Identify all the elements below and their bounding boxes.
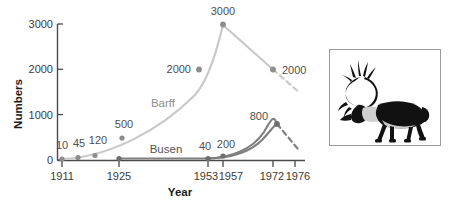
barff-label-2000b: 2000 — [282, 64, 306, 76]
antler-tine-5 — [342, 75, 352, 82]
y-tick-label-2000: 2000 — [29, 63, 53, 75]
barff-label-120: 120 — [89, 134, 107, 146]
busen-point-800 — [274, 121, 280, 127]
x-tick-label-1976: 1976 — [286, 170, 310, 182]
reindeer-figure — [338, 60, 429, 143]
y-tick-label-1000: 1000 — [29, 109, 53, 121]
y-tick-label-0: 0 — [47, 154, 53, 166]
antler-tine-1 — [350, 64, 356, 78]
y-tick-labels: 3000 2000 1000 0 — [29, 18, 53, 166]
reindeer-illustration-box — [329, 49, 441, 146]
figure-root: 3000 2000 1000 0 1911 1925 1953 1957 197… — [0, 0, 457, 210]
barff-value-labels: 10 45 120 500 2000 3000 2000 — [56, 5, 307, 151]
barff-point-500 — [119, 135, 124, 140]
foreleg-back — [390, 126, 394, 141]
hoof-3 — [404, 139, 411, 143]
barff-point-45 — [75, 155, 80, 160]
brow-tine — [338, 102, 348, 111]
barff-label-3000: 3000 — [211, 5, 235, 17]
x-tick-label-1911: 1911 — [50, 170, 74, 182]
x-tick-label-1957: 1957 — [219, 170, 243, 182]
hoof-2 — [389, 139, 396, 143]
barff-label-500: 500 — [115, 118, 133, 130]
barff-label-10: 10 — [56, 139, 68, 151]
barff-curve-label: Barff — [151, 97, 176, 109]
busen-curve-label: Busen — [150, 143, 183, 155]
barff-label-2000a: 2000 — [167, 63, 191, 75]
hoof-4 — [419, 137, 426, 141]
busen-label-800: 800 — [250, 110, 268, 122]
barff-rise-path — [62, 25, 223, 159]
hindleg-front — [406, 127, 413, 141]
barff-decline-path — [223, 25, 273, 70]
barff-point-3000 — [220, 22, 226, 28]
barff-point-2000b — [270, 67, 276, 73]
antler-tine-3 — [363, 62, 368, 77]
antler-beam-right — [363, 77, 378, 108]
y-axis-title: Numbers — [12, 79, 24, 129]
barff-point-2000a — [196, 67, 202, 73]
antler-beam-left — [346, 77, 364, 106]
rump — [422, 107, 429, 122]
busen-dashed-projection — [277, 124, 298, 149]
foreleg-front — [377, 124, 387, 141]
x-tick-label-1972: 1972 — [260, 170, 284, 182]
x-tick-labels: 1911 1925 1953 1957 1972 1976 — [50, 170, 310, 182]
busen-value-labels: 40 200 800 — [199, 110, 268, 152]
barff-point-10 — [59, 156, 64, 161]
hoof-1 — [375, 139, 382, 143]
antler-tine-2 — [358, 60, 361, 76]
muzzle — [340, 114, 351, 121]
busen-point-40 — [205, 156, 210, 161]
busen-point-200 — [220, 153, 225, 158]
x-tick-label-1953: 1953 — [194, 170, 218, 182]
x-axis-title: Year — [168, 186, 193, 198]
reindeer-illustration — [330, 50, 440, 145]
busen-label-40: 40 — [199, 140, 211, 152]
antler-tine-4 — [367, 67, 376, 79]
busen-label-200: 200 — [217, 138, 235, 150]
y-tick-label-3000: 3000 — [29, 18, 53, 30]
busen-point-start — [116, 156, 121, 161]
barff-label-45: 45 — [73, 137, 85, 149]
barff-point-120 — [92, 153, 97, 158]
x-tick-label-1925: 1925 — [107, 170, 131, 182]
